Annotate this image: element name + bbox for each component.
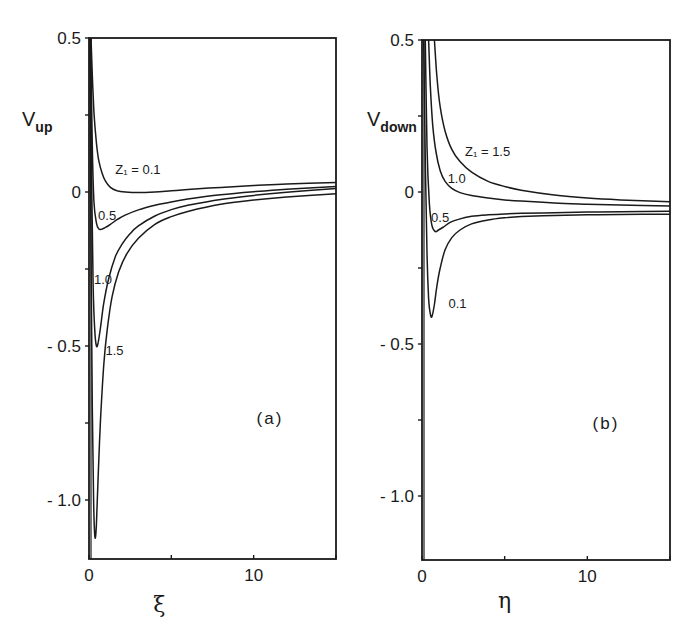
figure: 0.50- 0.5- 1.0010Vupξ(a)Z₁ = 0.10.51.01.… [0, 0, 691, 639]
y-axis-label: Vup [22, 108, 52, 135]
panel-tag: (a) [257, 409, 284, 428]
y-tick-label: - 0.5 [380, 335, 414, 354]
y-tick-label: 0.5 [390, 31, 414, 50]
y-tick-label: - 0.5 [47, 337, 81, 356]
y-tick-label: - 1.0 [47, 491, 81, 510]
series-line [90, 29, 336, 229]
panel-tag: (b) [593, 414, 620, 433]
y-tick-label: 0 [405, 183, 414, 202]
series-line [90, 21, 337, 538]
series-label: 0.5 [98, 208, 116, 223]
y-axis-label: Vdown [367, 108, 417, 135]
series-line [434, 37, 670, 202]
x-tick-label: 0 [84, 566, 93, 585]
series-label: Z₁ = 0.1 [115, 162, 160, 177]
series-label: 1.5 [105, 343, 123, 358]
x-axis-label: η [498, 588, 511, 613]
series-label: 0.5 [431, 210, 449, 225]
y-tick-label: - 1.0 [380, 487, 414, 506]
x-tick-label: 10 [244, 566, 263, 585]
y-tick-label: 0 [72, 183, 81, 202]
panel-b: 0.50- 0.5- 1.0010Vdownη(b)Z₁ = 1.51.00.5… [367, 30, 670, 613]
x-tick-label: 10 [578, 567, 597, 586]
series-label: Z₁ = 1.5 [465, 144, 510, 159]
series-line [425, 31, 670, 231]
x-tick-label: 0 [417, 567, 426, 586]
series-label: 0.1 [448, 296, 466, 311]
y-tick-label: 0.5 [57, 29, 81, 48]
series-label: 1.0 [448, 171, 466, 186]
x-axis-label: ξ [153, 592, 165, 617]
plot-frame [89, 38, 336, 559]
panel-a: 0.50- 0.5- 1.0010Vupξ(a)Z₁ = 0.10.51.01.… [22, 21, 336, 617]
series-label: 1.0 [94, 272, 112, 287]
